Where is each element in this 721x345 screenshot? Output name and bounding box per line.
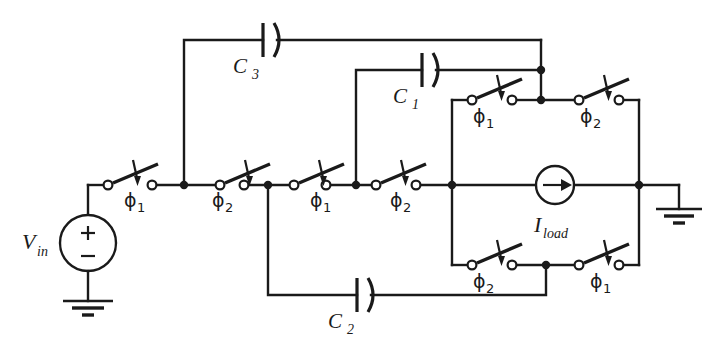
switch-main-3-terminal-left	[290, 181, 299, 190]
switch-main-4-ctrl-arrow	[402, 176, 409, 186]
circuit-schematic: C 3 C 1 C 2	[0, 0, 721, 345]
switch-main-1-terminal-left	[104, 181, 113, 190]
voltage-source-circle	[60, 215, 116, 271]
switch-main-1-terminal-right	[148, 181, 157, 190]
switch-main-1-phase-subscript: 1	[137, 200, 145, 215]
switch-bottom-left-ctrl-arrow	[498, 256, 505, 266]
node-c3-tap	[180, 181, 188, 189]
switch-top-right-ctrl-arrow	[605, 91, 612, 101]
capacitor-c3-branch: C 3	[184, 23, 541, 185]
switch-top-right-terminal-left	[575, 96, 584, 105]
current-source-subscript: load	[543, 226, 569, 241]
switch-top-left-terminal-left	[468, 96, 477, 105]
switch-main-2-phase-subscript: 2	[225, 200, 233, 215]
voltage-source-label: V	[22, 229, 38, 254]
switch-top-right-terminal-right	[615, 96, 624, 105]
switch-bottom-right[interactable]: ϕ 1	[575, 240, 629, 296]
switch-top-left-terminal-right	[508, 96, 517, 105]
switch-top-right-phase-label: ϕ	[580, 105, 593, 127]
node-output-left	[448, 181, 456, 189]
switch-top-left-ctrl-arrow	[498, 91, 505, 101]
capacitor-c2-label: C	[328, 309, 343, 333]
node-c1-tap	[352, 181, 360, 189]
ground-left	[63, 301, 113, 315]
switch-main-1-phase-label: ϕ	[124, 189, 137, 211]
capacitor-c1-subscript: 1	[412, 97, 419, 112]
switch-bottom-right-terminal-right	[615, 261, 624, 270]
capacitor-c3-subscript: 3	[251, 67, 259, 82]
capacitor-c1-branch: C 1	[356, 53, 541, 185]
switch-main-2-phase-label: ϕ	[212, 189, 225, 211]
switch-top-left-phase-subscript: 1	[486, 116, 494, 131]
switch-main-4[interactable]: ϕ 2	[372, 160, 426, 215]
c2-right-wire	[371, 265, 546, 295]
switch-top-right[interactable]: ϕ 2	[575, 75, 629, 131]
switch-bottom-right-phase-subscript: 1	[603, 281, 611, 296]
switch-bottom-left-phase-subscript: 2	[486, 281, 494, 296]
switch-main-2-terminal-right	[240, 181, 249, 190]
current-source-label: I	[533, 212, 543, 237]
switch-main-4-phase-label: ϕ	[390, 189, 403, 211]
main-rail	[88, 185, 679, 215]
switch-main-3[interactable]: ϕ 1	[290, 160, 344, 215]
capacitor-c3-label: C	[233, 54, 248, 78]
node-output-right	[635, 181, 643, 189]
current-source-iload: I load	[533, 166, 574, 241]
switch-bottom-left[interactable]: ϕ 2	[468, 240, 522, 296]
switch-main-3-phase-label: ϕ	[310, 189, 323, 211]
ground-right	[656, 185, 702, 223]
switch-top-left[interactable]: ϕ 1	[468, 75, 522, 131]
switch-main-4-phase-subscript: 2	[403, 200, 411, 215]
c1-left-wire	[356, 70, 422, 185]
switch-main-3-phase-subscript: 1	[323, 200, 331, 215]
circuit-svg: C 3 C 1 C 2	[0, 0, 721, 345]
capacitor-c2-subscript: 2	[347, 322, 354, 337]
switch-main-4-terminal-right	[412, 181, 421, 190]
node-bottom-rail-center	[542, 261, 550, 269]
switch-main-1-ctrl-arrow	[134, 176, 141, 186]
switch-main-4-terminal-left	[372, 181, 381, 190]
switch-bottom-right-phase-label: ϕ	[590, 270, 603, 292]
switch-top-right-phase-subscript: 2	[593, 116, 601, 131]
switch-bottom-right-terminal-left	[575, 261, 584, 270]
capacitor-c1-label: C	[393, 84, 408, 108]
switch-main-1[interactable]: ϕ 1	[104, 160, 158, 215]
node-top-rail-center	[537, 96, 545, 104]
switch-main-2[interactable]: ϕ 2	[212, 160, 270, 215]
switch-bottom-right-ctrl-arrow	[605, 256, 612, 266]
switch-bottom-left-phase-label: ϕ	[473, 270, 486, 292]
voltage-source-subscript: in	[37, 244, 48, 259]
switch-bottom-left-terminal-left	[468, 261, 477, 270]
node-c2-tap	[264, 181, 272, 189]
node-c1-c3-junction	[537, 66, 545, 74]
c3-left-wire	[184, 40, 263, 185]
voltage-source-vin: V in	[22, 215, 116, 301]
switch-top-left-phase-label: ϕ	[473, 105, 486, 127]
switch-bottom-left-terminal-right	[508, 261, 517, 270]
